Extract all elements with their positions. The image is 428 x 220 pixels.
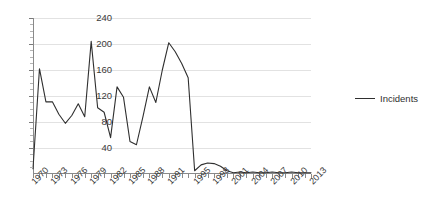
y-minor-tick — [30, 128, 33, 129]
y-minor-tick — [30, 115, 33, 116]
y-tick-label-40: 40 — [72, 143, 112, 152]
y-minor-tick — [30, 109, 33, 110]
y-minor-tick — [30, 141, 33, 142]
series-line-incidents — [33, 41, 311, 172]
y-minor-tick — [30, 83, 33, 84]
y-major-tick — [29, 122, 33, 123]
y-minor-tick — [30, 167, 33, 168]
y-minor-tick — [30, 57, 33, 58]
legend-label-incidents: Incidents — [380, 93, 418, 104]
x-tick — [188, 174, 189, 178]
y-minor-tick — [30, 31, 33, 32]
y-major-tick — [29, 18, 33, 19]
y-tick-label-120: 120 — [72, 91, 112, 100]
y-minor-tick — [30, 50, 33, 51]
legend-line-swatch-incidents — [355, 98, 375, 99]
y-minor-tick — [30, 37, 33, 38]
line-chart: 240 200 160 120 80 40 197019731976197919… — [0, 0, 428, 220]
y-minor-tick — [30, 102, 33, 103]
y-minor-tick — [30, 76, 33, 77]
y-tick-label-240: 240 — [72, 13, 112, 22]
y-tick-label-200: 200 — [72, 39, 112, 48]
y-tick-label-80: 80 — [72, 117, 112, 126]
y-minor-tick — [30, 63, 33, 64]
chart-legend: Incidents — [355, 93, 418, 104]
y-minor-tick — [30, 135, 33, 136]
x-tick-label-2013: 2013 — [308, 166, 329, 187]
y-minor-tick — [30, 154, 33, 155]
y-minor-tick — [30, 24, 33, 25]
y-major-tick — [29, 148, 33, 149]
y-minor-tick — [30, 89, 33, 90]
y-minor-tick — [30, 161, 33, 162]
y-major-tick — [29, 96, 33, 97]
y-major-tick — [29, 70, 33, 71]
y-tick-label-160: 160 — [72, 65, 112, 74]
y-major-tick — [29, 44, 33, 45]
